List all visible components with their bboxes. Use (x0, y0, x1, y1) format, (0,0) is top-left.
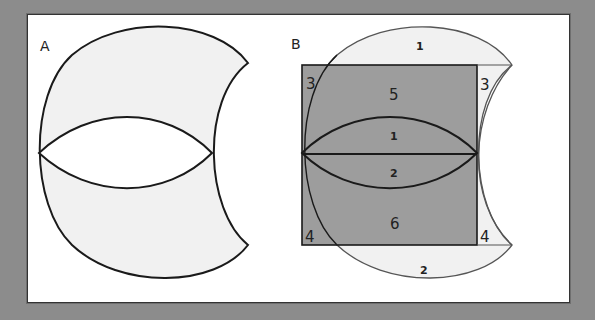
region-top-left-corner-label: 3 (306, 75, 316, 93)
region-top-cap-label: 1 (416, 40, 424, 53)
region-upper-lens-label: 1 (390, 130, 398, 143)
panel-a-label: A (40, 38, 50, 54)
panel-b-label: B (291, 36, 301, 52)
panel-b: B 1 3 3 5 1 2 6 4 4 2 (291, 27, 512, 278)
region-bottom-right-corner-label: 4 (480, 228, 490, 246)
region-upper-rect-label: 5 (389, 86, 399, 104)
region-top-right-corner-label: 3 (480, 76, 490, 94)
diagram-canvas: A B 1 3 3 5 1 2 6 4 4 2 (0, 0, 595, 320)
region-lower-lens-label: 2 (390, 167, 398, 180)
region-bottom-left-corner-label: 4 (305, 228, 315, 246)
region-lower-rect-label: 6 (390, 215, 400, 233)
panel-a: A (39, 27, 248, 278)
region-bottom-cap-label: 2 (420, 264, 428, 277)
